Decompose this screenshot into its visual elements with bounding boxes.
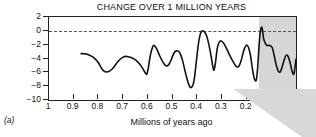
x-tick-mark	[172, 94, 173, 99]
y-tick-mark	[43, 85, 48, 86]
y-tick-label: 0	[0, 25, 41, 35]
x-tick-mark	[246, 94, 247, 99]
panel-label: (a)	[4, 115, 14, 125]
y-tick-mark	[43, 71, 48, 72]
x-tick-mark	[196, 94, 197, 99]
y-tick-mark	[43, 99, 48, 100]
y-tick-mark	[43, 16, 48, 17]
y-tick-mark	[43, 58, 48, 59]
y-tick-label: −4	[0, 53, 41, 63]
x-tick-mark	[147, 94, 148, 99]
x-tick-mark	[122, 94, 123, 99]
y-tick-label: −6	[0, 66, 41, 76]
y-tick-mark	[43, 44, 48, 45]
figure-panel: CHANGE OVER 1 MILLION YEARS Temperature …	[0, 0, 316, 137]
x-tick-mark	[221, 94, 222, 99]
x-tick-mark	[73, 94, 74, 99]
chart-title: CHANGE OVER 1 MILLION YEARS	[48, 2, 295, 12]
temperature-curve	[49, 17, 296, 100]
x-axis-label: Millions of years ago	[48, 117, 295, 127]
y-tick-label: 2	[0, 11, 41, 21]
x-tick-mark	[295, 94, 296, 99]
x-tick-mark	[270, 94, 271, 99]
x-tick-label: 0	[275, 101, 315, 111]
y-tick-label: −2	[0, 39, 41, 49]
y-tick-label: −8	[0, 80, 41, 90]
plot-area	[48, 16, 297, 101]
x-tick-mark	[97, 94, 98, 99]
y-tick-mark	[43, 30, 48, 31]
x-tick-mark	[48, 94, 49, 99]
